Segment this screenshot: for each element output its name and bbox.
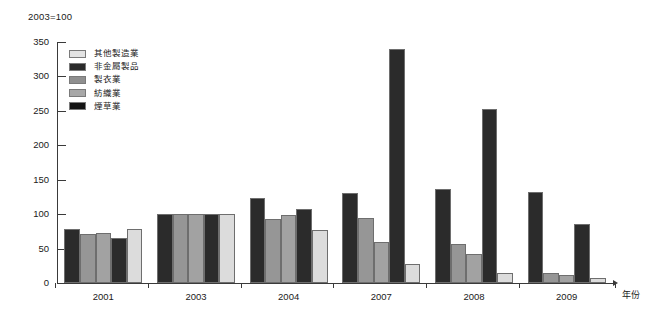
x-tick-mark — [615, 283, 616, 288]
bar — [265, 219, 281, 283]
bar — [173, 214, 189, 283]
y-tick-label: 50 — [0, 243, 49, 254]
legend-swatch-icon — [69, 89, 86, 97]
legend-label: 非金屬製品 — [94, 62, 139, 71]
bar — [64, 229, 80, 283]
chart-title: 2003=100 — [28, 11, 72, 22]
bar — [219, 214, 235, 283]
y-tick-label: 250 — [0, 105, 49, 116]
y-tick-label: 300 — [0, 70, 49, 81]
bar — [96, 233, 112, 283]
legend-item: 紡織業 — [69, 89, 139, 98]
legend-label: 煙草業 — [94, 102, 121, 111]
bar — [281, 215, 297, 283]
x-axis-title: 年份 — [622, 288, 640, 301]
legend-swatch-icon — [69, 76, 86, 84]
bar — [574, 224, 590, 283]
y-tick-mark — [57, 283, 66, 284]
bar — [188, 214, 204, 283]
y-tick-label: 100 — [0, 208, 49, 219]
x-tick-mark — [55, 283, 56, 288]
y-tick-label: 150 — [0, 174, 49, 185]
legend-swatch-icon — [69, 50, 86, 58]
bar — [204, 214, 220, 283]
x-tick-label: 2003 — [185, 291, 206, 302]
legend-swatch-icon — [69, 63, 86, 71]
bar — [374, 242, 390, 283]
x-axis-line — [57, 283, 613, 284]
legend-swatch-icon — [69, 102, 86, 110]
bar — [528, 192, 544, 283]
bar — [435, 189, 451, 283]
legend-item: 製衣業 — [69, 75, 139, 84]
x-tick-label: 2008 — [463, 291, 484, 302]
bar — [389, 49, 405, 283]
legend-item: 非金屬製品 — [69, 62, 139, 71]
y-tick-label: 200 — [0, 139, 49, 150]
bar — [590, 278, 606, 284]
bar — [80, 234, 96, 283]
x-tick-mark — [148, 283, 149, 288]
x-tick-label: 2001 — [93, 291, 114, 302]
x-tick-label: 2004 — [278, 291, 299, 302]
legend-item: 煙草業 — [69, 102, 139, 111]
bar — [497, 273, 513, 283]
bar — [559, 275, 575, 283]
bar — [466, 254, 482, 283]
bar — [157, 214, 173, 283]
x-tick-mark — [241, 283, 242, 288]
bar-chart: 2003=100 年份 050100150200250300350 200120… — [0, 0, 663, 311]
legend-label: 其他製造業 — [94, 49, 139, 58]
x-tick-mark — [333, 283, 334, 288]
bar — [312, 230, 328, 283]
legend-label: 製衣業 — [94, 75, 121, 84]
bar — [127, 229, 143, 283]
legend-item: 其他製造業 — [69, 49, 139, 58]
bar — [543, 273, 559, 283]
bar — [358, 218, 374, 283]
bar — [250, 198, 266, 283]
y-tick-label: 350 — [0, 36, 49, 47]
chart-legend: 其他製造業非金屬製品製衣業紡織業煙草業 — [69, 49, 139, 111]
bar — [342, 193, 358, 283]
y-tick-label: 0 — [0, 277, 49, 288]
x-tick-label: 2007 — [371, 291, 392, 302]
plot-area — [57, 42, 613, 283]
bar — [111, 238, 127, 283]
bar — [451, 244, 467, 283]
bar — [405, 264, 421, 283]
x-tick-label: 2009 — [556, 291, 577, 302]
bar — [296, 209, 312, 283]
x-tick-mark — [519, 283, 520, 288]
legend-label: 紡織業 — [94, 89, 121, 98]
x-tick-mark — [426, 283, 427, 288]
bar — [482, 109, 498, 283]
